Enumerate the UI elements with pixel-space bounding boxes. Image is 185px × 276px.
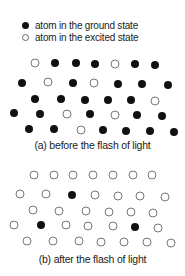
excited-state-atom-icon [111,60,120,69]
caption-after-flash: (b) after the flash of light [0,253,185,265]
excited-state-atom-icon [62,221,71,230]
excited-state-atom-icon [129,171,138,180]
excited-state-atom-icon [31,59,40,68]
excited-state-atom-icon [16,190,25,199]
excited-state-atom-icon [105,208,114,217]
excited-state-atom-icon [136,192,145,201]
excited-state-atom-icon [111,111,120,120]
excited-state-atom-icon [149,209,158,218]
excited-state-atom-icon [77,126,86,135]
excited-state-atom-icon [89,171,98,180]
ground-state-atom-icon [91,60,99,68]
excited-state-atom-icon [30,171,39,180]
ground-state-atom-icon [69,79,77,87]
excited-state-atom-icon [143,238,152,247]
ground-state-atom-icon [31,95,39,103]
legend-ground-label: atom in the ground state [35,20,138,31]
ground-state-atom-icon [81,96,89,104]
ground-state-atom-icon [131,223,139,231]
excited-state-atom-icon [167,239,176,248]
ground-state-atom-icon [36,110,44,118]
legend-excited-label: atom in the excited state [35,32,138,43]
excited-state-atom-icon [120,238,129,247]
excited-state-atom-icon [109,171,118,180]
excited-state-atom-icon [97,238,106,247]
ground-state-atom-icon [170,128,178,136]
ground-state-atom-icon [99,126,107,134]
ground-state-atom-icon [68,191,76,199]
ground-state-atom-icon [10,109,18,117]
excited-state-atom-icon [75,237,84,246]
excited-state-atom-icon [10,221,19,230]
ground-state-atom-icon [86,110,94,118]
excited-state-atom-icon [42,190,51,199]
ground-state-atom-icon [138,80,146,88]
excited-state-atom-icon [148,171,157,180]
ground-state-atom-icon [122,127,130,135]
ground-state-atom-icon [133,111,141,119]
ground-state-atom-icon [18,79,26,87]
ground-state-atom-icon [72,59,80,67]
excited-state-atom-icon [154,224,163,233]
open-circle-icon [22,34,29,41]
legend-ground: atom in the ground state [22,19,138,31]
ground-state-atom-icon [131,60,139,68]
ground-state-atom-icon [104,96,112,104]
ground-state-atom-icon [51,59,59,67]
ground-state-atom-icon [57,95,65,103]
excited-state-atom-icon [127,208,136,217]
ground-state-atom-icon [158,112,166,120]
ground-state-atom-icon [50,125,58,133]
excited-state-atom-icon [90,79,99,88]
excited-state-atom-icon [114,192,123,201]
excited-state-atom-icon [109,222,118,231]
excited-state-atom-icon [44,78,53,87]
ground-state-atom-icon [151,61,159,69]
filled-circle-icon [22,22,29,29]
ground-state-atom-icon [25,125,33,133]
legend-excited: atom in the excited state [22,31,138,43]
excited-state-atom-icon [50,171,59,180]
ground-state-atom-icon [37,221,45,229]
caption-before-flash: (a) before the flash of light [0,139,185,151]
excited-state-atom-icon [23,237,32,246]
excited-state-atom-icon [63,110,72,119]
excited-state-atom-icon [55,207,64,216]
ground-state-atom-icon [127,96,135,104]
ground-state-atom-icon [146,127,154,135]
ground-state-atom-icon [164,81,172,89]
ground-state-atom-icon [114,80,122,88]
excited-state-atom-icon [82,207,91,216]
excited-state-atom-icon [69,171,78,180]
excited-state-atom-icon [84,222,93,231]
excited-state-atom-icon [161,193,170,202]
excited-state-atom-icon [29,206,38,215]
excited-state-atom-icon [91,191,100,200]
excited-state-atom-icon [151,97,160,106]
excited-state-atom-icon [49,237,58,246]
